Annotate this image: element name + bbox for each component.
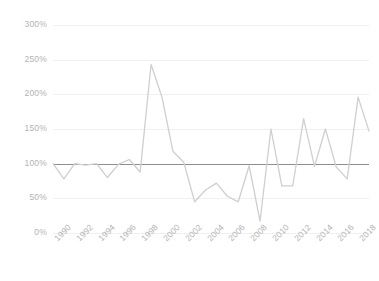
series-polyline — [53, 65, 369, 222]
y-tick-label: 300% — [3, 20, 47, 29]
x-axis-labels: 1990199219941996199820002002200420062008… — [53, 236, 369, 281]
y-tick-label: 0% — [3, 228, 47, 237]
y-axis-labels: 0%50%100%150%200%250%300% — [0, 25, 47, 233]
series-line — [53, 25, 369, 233]
y-tick-label: 150% — [3, 124, 47, 133]
y-tick-label: 250% — [3, 55, 47, 64]
y-tick-label: 200% — [3, 89, 47, 98]
y-tick-label: 100% — [3, 159, 47, 168]
y-tick-label: 50% — [3, 193, 47, 202]
plot-area — [53, 25, 369, 233]
line-chart: 0%50%100%150%200%250%300% 19901992199419… — [0, 0, 379, 281]
